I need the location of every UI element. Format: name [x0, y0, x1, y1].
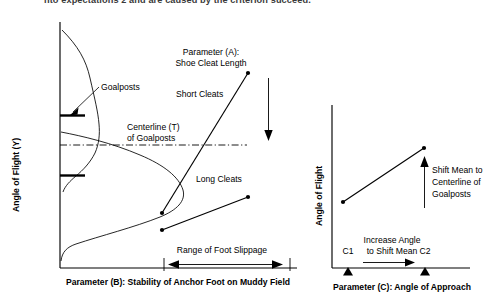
- centerline-label-line2: of Goalposts: [127, 133, 175, 143]
- long-cleats-trend-line: [162, 197, 248, 230]
- c2-label: C2: [420, 246, 431, 256]
- trend-point-c2: [422, 146, 426, 150]
- parameter-a-arrowhead: [264, 130, 272, 141]
- long-cleats-point-right: [246, 195, 250, 199]
- right-y-axis-title: Angle of Flight: [314, 166, 324, 226]
- trend-point-c1: [341, 200, 345, 204]
- shift-mean-label-line2: Centerline of: [432, 177, 481, 187]
- increase-angle-label-line2: to Shift Mean: [367, 246, 418, 256]
- short-cleats-point-right: [246, 71, 250, 75]
- narrow-distribution-curve: [62, 30, 99, 192]
- c1-label: C1: [343, 246, 354, 256]
- centerline-label-line1: Centerline (T): [127, 122, 180, 132]
- range-of-foot-slippage-label: Range of Foot Slippage: [177, 245, 268, 255]
- parameter-a-label-line1: Parameter (A):: [183, 47, 239, 57]
- shift-mean-label-line3: Goalposts: [432, 189, 471, 199]
- shift-mean-label-line1: Shift Mean to: [432, 165, 483, 175]
- parameter-diagram-svg: Goalposts Centerline (T) of Goalposts Pa…: [0, 0, 490, 303]
- wide-distribution-curve: [61, 132, 184, 261]
- long-cleats-point-left: [160, 228, 164, 232]
- right-panel: Shift Mean to Centerline of Goalposts In…: [314, 105, 483, 292]
- shift-mean-arrowhead: [420, 156, 428, 167]
- angle-of-flight-trend-line: [343, 148, 424, 202]
- long-cleats-label: Long Cleats: [196, 174, 242, 184]
- parameter-a-label-line2: Shoe Cleat Length: [175, 58, 246, 68]
- left-x-axis-title: Parameter (B): Stability of Anchor Foot …: [66, 277, 290, 287]
- right-x-axis-title: Parameter (C): Angle of Approach: [333, 282, 471, 292]
- goalposts-arrowhead: [70, 108, 79, 116]
- goalposts-label: Goalposts: [101, 82, 140, 92]
- figure-root: nto expectations 2 and are caused by the…: [0, 0, 490, 303]
- short-cleats-label: Short Cleats: [176, 89, 223, 99]
- increase-angle-arrowhead: [405, 259, 415, 267]
- left-y-axis-title: Angle of Flight (Y): [11, 138, 21, 212]
- left-panel: Goalposts Centerline (T) of Goalposts Pa…: [11, 22, 297, 287]
- increase-angle-label-line1: Increase Angle: [364, 235, 421, 245]
- short-cleats-point-left: [160, 211, 164, 215]
